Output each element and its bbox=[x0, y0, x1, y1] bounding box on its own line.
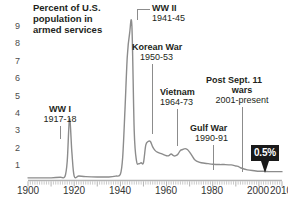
annotation-vietnam-label: Vietnam bbox=[160, 87, 195, 98]
annotation-post911-label2: wars bbox=[206, 85, 278, 96]
annotation-post911-years: 2001-present bbox=[206, 95, 278, 106]
x-tick-1980: 1980 bbox=[201, 185, 223, 196]
y-tick-7: 7 bbox=[15, 57, 20, 66]
callout-value-badge: 0.5% bbox=[251, 145, 279, 161]
annotation-ww1-label: WW I bbox=[40, 104, 80, 115]
x-tick-2010: 2010 bbox=[270, 185, 288, 196]
annotation-ww1-years: 1917-18 bbox=[34, 114, 86, 125]
x-axis: 1900 1920 1940 1960 1980 2000 2010 bbox=[0, 185, 288, 203]
annotation-korea-leader bbox=[152, 64, 153, 134]
annotation-korea-years: 1950-53 bbox=[140, 52, 173, 63]
x-tick-1940: 1940 bbox=[109, 185, 131, 196]
annotation-ww2-years: 1941-45 bbox=[152, 13, 185, 24]
y-tick-9: 9 bbox=[15, 22, 20, 31]
y-tick-5: 5 bbox=[15, 92, 20, 101]
x-tick-1960: 1960 bbox=[155, 185, 177, 196]
annotation-gulf-label: Gulf War bbox=[190, 123, 227, 134]
annotation-ww2-label: WW II bbox=[152, 3, 177, 14]
y-tick-3: 3 bbox=[15, 126, 20, 135]
annotation-post911-leader bbox=[242, 107, 243, 172]
y-tick-2: 2 bbox=[15, 144, 20, 153]
annotation-gulf-leader bbox=[213, 145, 214, 170]
annotation-ww2-leader-vertical bbox=[137, 9, 138, 20]
y-tick-4: 4 bbox=[15, 109, 20, 118]
annotation-ww1-leader bbox=[60, 126, 61, 139]
chart-figure: 9 8 7 6 5 4 3 2 1 1900 1920 1940 1960 19… bbox=[0, 0, 288, 214]
y-axis: 9 8 7 6 5 4 3 2 1 bbox=[0, 0, 24, 214]
annotation-post911-label: Post Sept. 11 bbox=[206, 75, 262, 86]
y-tick-6: 6 bbox=[15, 74, 20, 83]
annotation-ww2-leader-horizontal bbox=[137, 9, 150, 10]
annotation-vietnam-years: 1964-73 bbox=[160, 97, 193, 108]
chart-title: Percent of U.S. population in armed serv… bbox=[33, 2, 102, 35]
callout-pointer-icon bbox=[261, 161, 269, 173]
x-tick-1900: 1900 bbox=[17, 185, 39, 196]
x-tick-1920: 1920 bbox=[63, 185, 85, 196]
x-tick-2000: 2000 bbox=[247, 185, 269, 196]
annotation-korea-label: Korean War bbox=[132, 42, 182, 53]
annotation-gulf-years: 1990-91 bbox=[195, 133, 228, 144]
annotation-vietnam-leader bbox=[177, 109, 178, 146]
y-tick-8: 8 bbox=[15, 39, 20, 48]
y-tick-1: 1 bbox=[15, 161, 20, 170]
